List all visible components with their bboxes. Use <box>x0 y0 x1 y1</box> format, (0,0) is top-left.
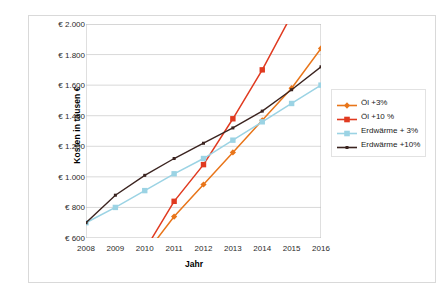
legend-item[interactable]: Öl +3% <box>336 95 420 109</box>
plot-area <box>86 24 321 238</box>
plot-border <box>86 24 321 238</box>
chart-container: Kosten in tausen € € 600€ 800€ 1.000€ 1.… <box>28 15 436 283</box>
legend-label: Erdwärme + 3% <box>361 126 418 135</box>
legend-item[interactable]: Erdwärme +10% <box>336 137 420 151</box>
y-tick-label: € 1.400 <box>35 111 85 120</box>
chart-legend: Öl +3%Öl +10 %Erdwärme + 3%Erdwärme +10% <box>331 89 426 157</box>
series-erdw-rme-10- <box>86 65 321 224</box>
x-axis-tick-labels: 200820092010201120122013201420152016 <box>29 244 437 258</box>
legend-label: Öl +3% <box>361 98 387 107</box>
y-tick-label: € 1.800 <box>35 50 85 59</box>
y-tick-label: € 800 <box>35 203 85 212</box>
legend-label: Öl +10 % <box>361 112 394 121</box>
y-tick-label: € 2.000 <box>35 20 85 29</box>
legend-marker-icon <box>336 97 358 108</box>
legend-label: Erdwärme +10% <box>361 140 420 149</box>
legend-marker-icon <box>336 139 358 150</box>
series-erdw-rme-3- <box>86 82 321 225</box>
x-axis-title: Jahr <box>59 259 329 269</box>
legend-marker-icon <box>336 111 358 122</box>
gridlines <box>86 24 321 207</box>
y-tick-label: € 1.000 <box>35 172 85 181</box>
y-tick-label: € 1.200 <box>35 142 85 151</box>
y-tick-label: € 1.600 <box>35 81 85 90</box>
series--l-10- <box>145 24 321 238</box>
legend-item[interactable]: Erdwärme + 3% <box>336 123 420 137</box>
legend-marker-icon <box>336 125 358 136</box>
data-series-layer <box>86 24 321 238</box>
x-tick-label: 2016 <box>304 244 338 253</box>
y-tick-label: € 600 <box>35 234 85 243</box>
legend-item[interactable]: Öl +10 % <box>336 109 420 123</box>
chart-svg <box>86 24 321 238</box>
